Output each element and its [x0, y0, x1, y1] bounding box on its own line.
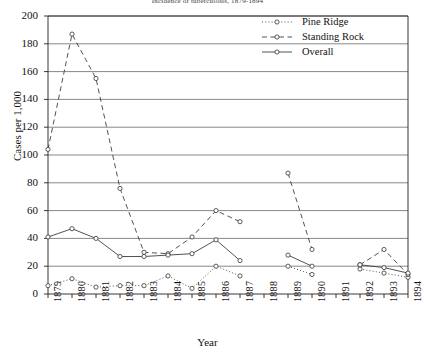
data-point [382, 266, 386, 270]
data-point [118, 284, 122, 288]
data-point [214, 238, 218, 242]
series-standing-rock [46, 32, 410, 277]
series-line [288, 173, 312, 249]
data-point [358, 267, 362, 271]
data-point [70, 277, 74, 281]
legend-label-pine-ridge: Pine Ridge [302, 16, 348, 27]
data-point [310, 247, 314, 251]
data-point [94, 236, 98, 240]
legend-swatch-marker [275, 20, 279, 24]
data-point [310, 272, 314, 276]
series-line [288, 266, 312, 274]
data-point [166, 274, 170, 278]
data-point [214, 264, 218, 268]
data-point [142, 254, 146, 258]
data-point [118, 254, 122, 258]
data-point [406, 271, 410, 275]
data-point [286, 264, 290, 268]
data-point [358, 263, 362, 267]
data-point [166, 253, 170, 257]
data-point [286, 171, 290, 175]
data-point [94, 285, 98, 289]
data-point [70, 32, 74, 36]
legend-swatch-marker [275, 50, 279, 54]
data-point [46, 235, 50, 239]
data-point [382, 271, 386, 275]
data-point [46, 284, 50, 288]
data-point [190, 252, 194, 256]
legend-swatch-marker [275, 35, 279, 39]
series-line [288, 255, 312, 266]
data-point [310, 264, 314, 268]
series-pine-ridge [46, 264, 410, 290]
legend-label-standing-rock: Standing Rock [302, 31, 364, 42]
data-point [118, 186, 122, 190]
data-point [238, 274, 242, 278]
series-overall [46, 227, 410, 276]
data-point [46, 147, 50, 151]
series-line [48, 34, 240, 254]
data-point [214, 209, 218, 213]
legend-label-overall: Overall [302, 46, 334, 57]
data-point [70, 227, 74, 231]
data-point [94, 76, 98, 80]
data-point [382, 247, 386, 251]
data-point [238, 259, 242, 263]
data-point [142, 250, 146, 254]
data-point [238, 220, 242, 224]
data-point [190, 286, 194, 290]
data-point [142, 284, 146, 288]
data-point [190, 235, 194, 239]
data-point [286, 253, 290, 257]
